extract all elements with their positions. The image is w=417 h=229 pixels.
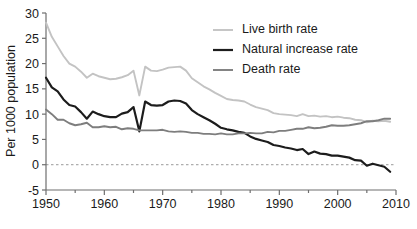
y-axis-ticks: -5051015202530 [25, 7, 46, 198]
series-line-natural-increase-rate [46, 78, 390, 172]
vital-statistics-line-chart: Per 1000 population -5051015202530 19501… [0, 0, 417, 229]
chart-legend: Live birth rateNatural increase rateDeat… [213, 22, 358, 76]
y-tick-label: 5 [32, 133, 39, 147]
legend-label-death-rate: Death rate [242, 62, 300, 76]
y-tick-label: 15 [25, 82, 39, 96]
y-tick-label: 20 [25, 57, 39, 71]
y-tick-label: -5 [28, 184, 39, 198]
series-line-live-birth-rate [46, 23, 390, 123]
y-tick-label: 10 [25, 108, 39, 122]
x-tick-label: 1960 [90, 197, 118, 211]
y-axis-title: Per 1000 population [4, 45, 18, 157]
x-tick-label: 1980 [207, 197, 235, 211]
legend-label-natural-increase-rate: Natural increase rate [242, 42, 358, 56]
x-tick-label: 2010 [382, 197, 410, 211]
x-tick-label: 1990 [265, 197, 293, 211]
legend-label-live-birth-rate: Live birth rate [242, 22, 318, 36]
chart-canvas: Per 1000 population -5051015202530 19501… [0, 0, 417, 229]
y-tick-label: 25 [25, 32, 39, 46]
y-axis-title-group: Per 1000 population [4, 45, 18, 157]
x-tick-label: 1950 [32, 197, 60, 211]
x-tick-label: 2000 [324, 197, 352, 211]
x-axis-ticks: 1950196019701980199020002010 [32, 190, 410, 211]
y-tick-label: 0 [32, 158, 39, 172]
x-tick-label: 1970 [149, 197, 177, 211]
y-tick-label: 30 [25, 7, 39, 21]
